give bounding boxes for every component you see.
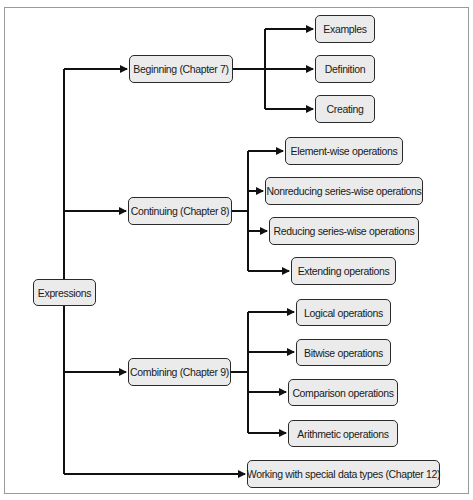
node-reducing: Reducing series-wise operations xyxy=(269,217,419,245)
node-creating: Creating xyxy=(315,95,375,123)
node-label: Working with special data types (Chapter… xyxy=(247,468,440,480)
node-beginning: Beginning (Chapter 7) xyxy=(129,55,233,83)
node-label: Definition xyxy=(325,63,365,75)
node-label: Arithmetic operations xyxy=(297,428,388,440)
node-logical: Logical operations xyxy=(296,299,391,326)
node-label: Expressions xyxy=(38,287,91,299)
node-label: Bitwise operations xyxy=(304,347,383,359)
node-element-wise: Element-wise operations xyxy=(285,137,403,165)
connector-lines xyxy=(0,0,473,500)
node-label: Nonreducing series-wise operations xyxy=(266,185,421,197)
node-special-types: Working with special data types (Chapter… xyxy=(247,460,440,488)
node-definition: Definition xyxy=(315,55,375,83)
node-comparison: Comparison operations xyxy=(288,379,398,406)
node-label: Element-wise operations xyxy=(291,145,398,157)
node-label: Comparison operations xyxy=(292,387,393,399)
node-label: Examples xyxy=(323,23,366,35)
node-expressions: Expressions xyxy=(33,279,96,306)
node-label: Beginning (Chapter 7) xyxy=(133,63,228,75)
node-label: Logical operations xyxy=(304,307,383,319)
node-combining: Combining (Chapter 9) xyxy=(128,358,231,386)
node-nonreducing: Nonreducing series-wise operations xyxy=(265,177,423,205)
node-bitwise: Bitwise operations xyxy=(296,339,391,366)
node-label: Combining (Chapter 9) xyxy=(130,366,229,378)
node-examples: Examples xyxy=(315,15,375,43)
node-label: Creating xyxy=(327,103,364,115)
node-label: Reducing series-wise operations xyxy=(274,225,415,237)
node-arithmetic: Arithmetic operations xyxy=(288,420,398,447)
node-extending: Extending operations xyxy=(291,257,396,285)
node-continuing: Continuing (Chapter 8) xyxy=(128,197,232,225)
node-label: Extending operations xyxy=(298,265,390,277)
node-label: Continuing (Chapter 8) xyxy=(131,205,230,217)
